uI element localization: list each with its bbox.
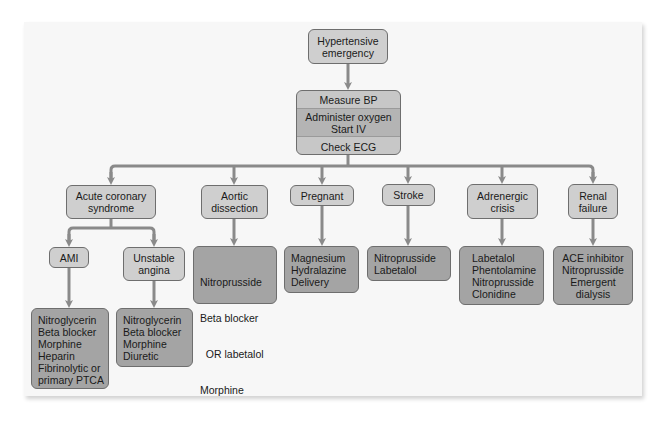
treatment-text: Nitroprusside bbox=[472, 276, 537, 288]
step-text: Administer oxygen bbox=[305, 111, 391, 123]
node-text: Adrenergic bbox=[477, 190, 528, 202]
step-text: Start IV bbox=[331, 123, 366, 135]
treatment-text: Clonidine bbox=[472, 288, 537, 300]
treatment-text: Beta blocker bbox=[123, 326, 186, 338]
treatment-text: Labetalol bbox=[374, 264, 444, 276]
treatment-stroke: Nitroprusside Labetalol bbox=[367, 246, 451, 281]
treatment-renal-failure: ACE inhibitor Nitroprusside Emergent dia… bbox=[553, 246, 633, 305]
treatment-pregnant: Magnesium Hydralazine Delivery bbox=[284, 246, 359, 293]
node-text: failure bbox=[579, 202, 608, 214]
condition-adrenergic-crisis: Adrenergic crisis bbox=[467, 184, 538, 219]
treatment-text: Morphine bbox=[38, 338, 102, 350]
treatment-text: Heparin bbox=[38, 350, 102, 362]
node-text: dissection bbox=[211, 202, 258, 214]
condition-aortic-dissection: Aortic dissection bbox=[201, 185, 268, 219]
treatment-unstable-angina: Nitroglycerin Beta blocker Morphine Diur… bbox=[116, 308, 193, 367]
node-text: Stroke bbox=[393, 189, 423, 201]
treatment-text: Nitroprusside bbox=[374, 252, 444, 264]
treatment-text: Hydralazine bbox=[291, 264, 352, 276]
treatment-text: Magnesium bbox=[291, 252, 352, 264]
node-text: emergency bbox=[322, 47, 374, 59]
treatment-text: Delivery bbox=[291, 276, 352, 288]
treatment-text: Nitroprusside bbox=[560, 264, 626, 276]
step-check-ecg: Check ECG bbox=[297, 137, 400, 155]
condition-unstable-angina: Unstable angina bbox=[123, 247, 185, 281]
node-text: syndrome bbox=[88, 202, 134, 214]
treatment-text: Diuretic bbox=[123, 350, 186, 362]
node-text: Unstable bbox=[133, 252, 174, 264]
node-text: Aortic bbox=[221, 190, 248, 202]
treatment-text: OR labetalol bbox=[200, 348, 270, 360]
treatment-text: Fibrinolytic or bbox=[38, 362, 102, 374]
node-text: Acute coronary bbox=[76, 190, 147, 202]
step-text: Check ECG bbox=[321, 141, 376, 153]
step-text: Measure BP bbox=[320, 94, 378, 106]
treatment-text: Phentolamine bbox=[472, 264, 537, 276]
node-text: Hypertensive bbox=[317, 35, 378, 47]
treatment-text: Beta blocker bbox=[38, 326, 102, 338]
condition-stroke: Stroke bbox=[382, 184, 435, 206]
initial-steps-node: Measure BP Administer oxygen Start IV Ch… bbox=[296, 90, 401, 155]
node-text: Pregnant bbox=[301, 190, 344, 202]
treatment-text: primary PTCA bbox=[38, 374, 102, 386]
node-text: Renal bbox=[579, 190, 606, 202]
condition-ami: AMI bbox=[49, 247, 89, 268]
treatment-text: Morphine bbox=[123, 338, 186, 350]
step-oxygen-iv: Administer oxygen Start IV bbox=[297, 109, 400, 137]
step-measure-bp: Measure BP bbox=[297, 91, 400, 109]
treatment-text: Emergent bbox=[560, 276, 626, 288]
treatment-text: dialysis bbox=[560, 288, 626, 300]
node-text: angina bbox=[138, 264, 170, 276]
treatment-ami: Nitroglycerin Beta blocker Morphine Hepa… bbox=[31, 308, 109, 389]
treatment-text: Beta blocker bbox=[200, 312, 270, 324]
root-node-hypertensive-emergency: Hypertensive emergency bbox=[308, 29, 388, 64]
node-text: AMI bbox=[60, 252, 79, 264]
condition-acute-coronary-syndrome: Acute coronary syndrome bbox=[66, 185, 156, 219]
treatment-text: Morphine bbox=[200, 384, 270, 396]
treatment-text: Labetalol bbox=[472, 252, 537, 264]
treatment-text: ACE inhibitor bbox=[560, 252, 626, 264]
node-text: crisis bbox=[491, 202, 515, 214]
condition-pregnant: Pregnant bbox=[290, 185, 354, 206]
condition-renal-failure: Renal failure bbox=[568, 184, 618, 219]
treatment-text: Nitroglycerin bbox=[123, 314, 186, 326]
treatment-adrenergic-crisis: Labetalol Phentolamine Nitroprusside Clo… bbox=[459, 246, 544, 305]
treatment-aortic-dissection: Nitroprusside Beta blocker OR labetalol … bbox=[193, 246, 277, 304]
treatment-text: Nitroglycerin bbox=[38, 314, 102, 326]
treatment-text: Nitroprusside bbox=[200, 276, 270, 288]
